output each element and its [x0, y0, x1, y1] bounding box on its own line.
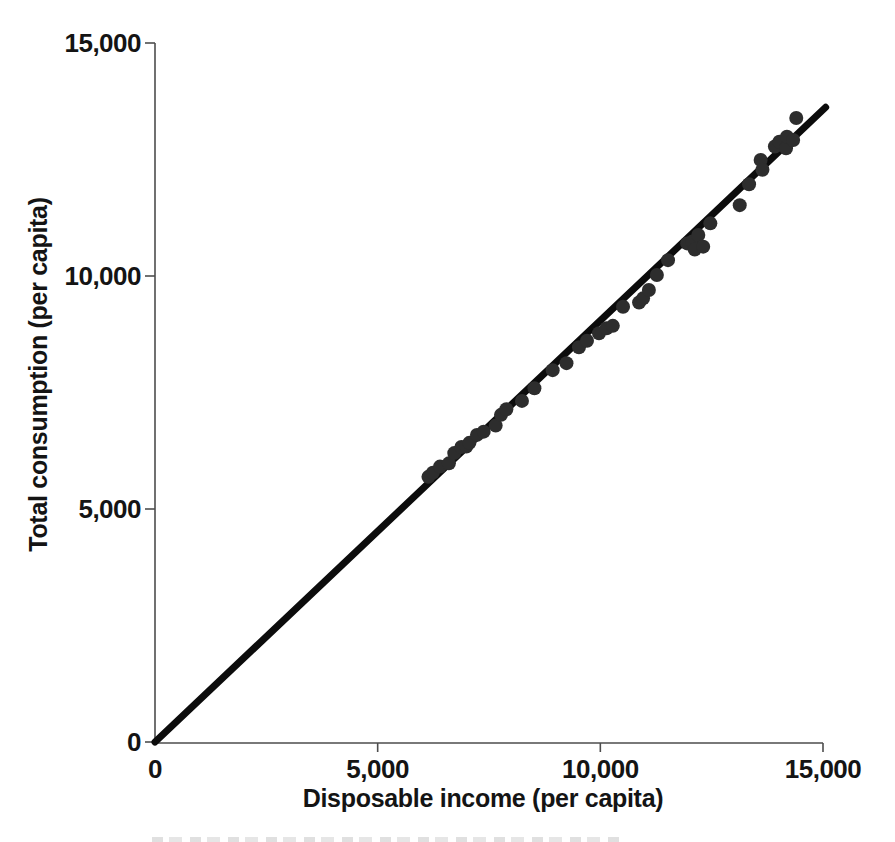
data-point [606, 319, 620, 333]
plot-area [0, 0, 895, 842]
data-point [696, 240, 710, 254]
x-tick-label: 0 [85, 754, 225, 784]
scatter-chart-figure: 05,00010,00015,000 05,00010,00015,000 To… [0, 0, 895, 842]
data-point [789, 111, 803, 125]
y-tick-label: 0 [31, 727, 141, 757]
data-point [527, 381, 541, 395]
data-point [616, 300, 630, 314]
data-point [499, 402, 513, 416]
data-point [786, 133, 800, 147]
data-point [650, 268, 664, 282]
x-axis-title: Disposable income (per capita) [233, 784, 733, 813]
cropped-caption-remnant [152, 837, 620, 842]
data-point [515, 394, 529, 408]
x-tick-label: 10,000 [530, 754, 670, 784]
data-point [661, 253, 675, 267]
data-point [755, 163, 769, 177]
data-point [642, 283, 656, 297]
data-point [580, 334, 594, 348]
data-point [559, 356, 573, 370]
data-point [703, 216, 717, 230]
x-tick-label: 15,000 [753, 754, 893, 784]
y-axis-title: Total consumption (per capita) [24, 148, 53, 602]
data-point [742, 177, 756, 191]
y-tick-label: 15,000 [31, 28, 141, 58]
x-tick-label: 5,000 [308, 754, 448, 784]
data-point [733, 198, 747, 212]
data-point [546, 363, 560, 377]
data-point [477, 425, 491, 439]
